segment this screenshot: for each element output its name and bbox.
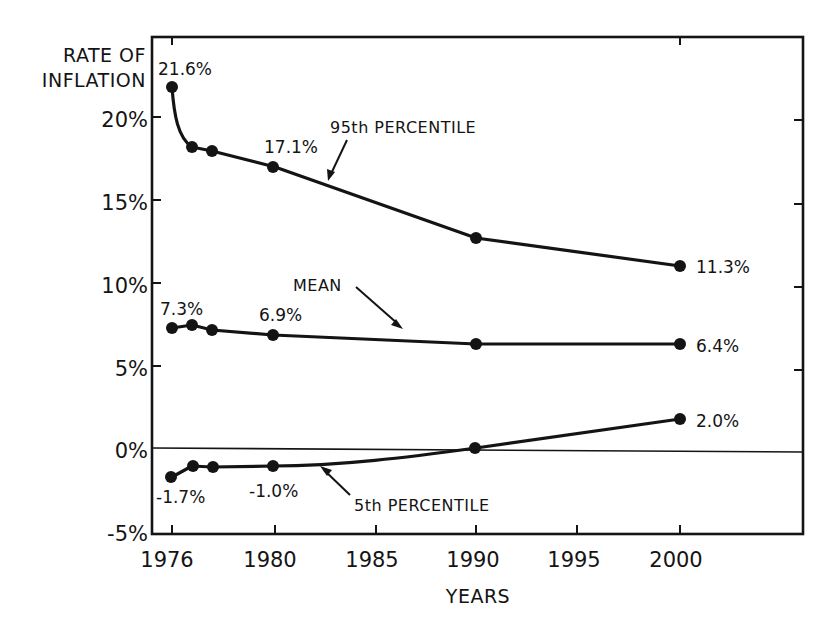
series-5th-percentile: -1.7% -1.0% 2.0% 5th PERCENTILE: [156, 411, 739, 515]
x-tick-label: 1976: [140, 548, 193, 572]
x-axis-title: YEARS: [445, 585, 510, 607]
data-point: [470, 338, 482, 350]
data-point: [267, 161, 279, 173]
data-point: [674, 413, 686, 425]
y-tick-label: 10%: [101, 274, 148, 298]
data-point: [186, 319, 198, 331]
data-point: [166, 81, 178, 93]
series-95th-line: [172, 87, 680, 266]
data-point: [187, 460, 199, 472]
plot-frame: [152, 37, 803, 534]
data-point: [674, 338, 686, 350]
y-tick-label: 5%: [115, 357, 148, 381]
arrow-icon: [320, 466, 350, 495]
value-label-95-1980: 17.1%: [264, 137, 318, 157]
arrow-icon: [327, 140, 347, 181]
series-mean-line: [172, 325, 680, 344]
data-point: [206, 324, 218, 336]
value-label-mean-1976: 7.3%: [160, 299, 203, 319]
y-tick-label: -5%: [107, 522, 148, 546]
value-label-5-1980: -1.0%: [249, 481, 298, 501]
y-tick-label: 0%: [115, 439, 148, 463]
data-point: [186, 141, 198, 153]
data-point: [674, 260, 686, 272]
y-tick-labels: -5% 0% 5% 10% 15% 20%: [101, 108, 148, 546]
x-tick-label: 1995: [547, 548, 600, 572]
y-axis-title-line1: RATE OF: [63, 44, 146, 66]
y-tick-label: 20%: [101, 108, 148, 132]
y-axis-ticks-left: [152, 117, 161, 366]
value-label-5-1976: -1.7%: [156, 487, 205, 507]
data-point: [165, 471, 177, 483]
value-label-95-1976: 21.6%: [158, 59, 212, 79]
series-label-mean: MEAN: [293, 276, 342, 295]
x-tick-label: 1990: [446, 548, 499, 572]
series-95th-percentile: 21.6% 17.1% 11.3% 95th PERCENTILE: [158, 59, 750, 277]
data-point: [206, 145, 218, 157]
y-tick-label: 15%: [101, 191, 148, 215]
series-label-5th: 5th PERCENTILE: [354, 496, 490, 515]
arrow-icon: [356, 287, 403, 329]
data-point: [207, 461, 219, 473]
y-axis-ticks-right: [794, 120, 803, 370]
data-point: [470, 232, 482, 244]
data-point: [267, 460, 279, 472]
series-label-95th: 95th PERCENTILE: [330, 118, 476, 137]
value-label-mean-2000: 6.4%: [696, 336, 739, 356]
data-point: [267, 329, 279, 341]
x-tick-label: 1985: [345, 548, 398, 572]
x-tick-label: 2000: [649, 548, 702, 572]
value-label-95-2000: 11.3%: [696, 257, 750, 277]
data-point: [469, 442, 481, 454]
value-label-mean-1980: 6.9%: [259, 305, 302, 325]
data-point: [166, 322, 178, 334]
y-axis-title-line2: INFLATION: [42, 69, 146, 91]
x-axis-ticks-bottom: [172, 525, 680, 534]
value-label-5-2000: 2.0%: [696, 411, 739, 431]
x-tick-label: 1980: [243, 548, 296, 572]
inflation-percentile-chart: -5% 0% 5% 10% 15% 20% 1976 1980 1985 199…: [0, 0, 835, 633]
series-mean: 7.3% 6.9% 6.4% MEAN: [160, 276, 739, 356]
x-tick-labels: 1976 1980 1985 1990 1995 2000: [140, 548, 702, 572]
